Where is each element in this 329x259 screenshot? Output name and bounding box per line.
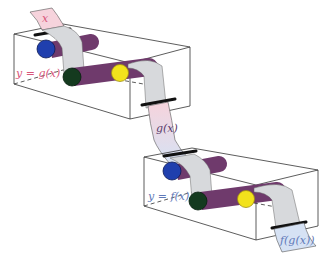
- machine-g-label: y = g(x): [15, 67, 60, 80]
- machine-f: f(g(x)) y = f(x): [144, 148, 318, 252]
- machine-f-label: y = f(x): [147, 190, 189, 203]
- blue-roller-f: [163, 162, 181, 180]
- yellow-roller-g: [112, 65, 129, 82]
- intermediate-label-gx: g(x): [156, 122, 178, 135]
- function-composition-diagram: x y = g(x) g(x): [0, 0, 329, 259]
- input-label-x: x: [42, 12, 49, 25]
- yellow-roller-f: [238, 191, 255, 208]
- blue-roller-g: [37, 40, 55, 58]
- machine-g: x y = g(x): [14, 8, 190, 119]
- belt-f-exit: [254, 184, 300, 228]
- green-roller-g: [63, 68, 81, 86]
- output-label-fgx: f(g(x)): [279, 234, 314, 247]
- green-roller-f: [189, 192, 207, 210]
